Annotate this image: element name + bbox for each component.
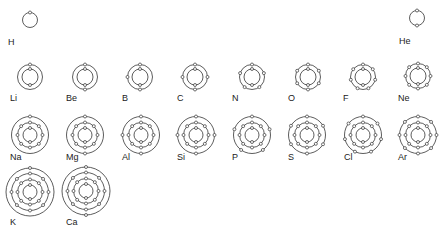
electron bbox=[97, 190, 100, 193]
electron bbox=[307, 84, 310, 87]
electron bbox=[307, 68, 310, 71]
shell-1 bbox=[410, 68, 426, 84]
electron bbox=[29, 121, 32, 124]
electron bbox=[20, 199, 23, 202]
electron bbox=[353, 142, 356, 145]
electron bbox=[268, 128, 271, 131]
electron bbox=[322, 124, 325, 127]
atom-k: K bbox=[6, 167, 54, 228]
shell-1 bbox=[411, 128, 425, 142]
shell-1 bbox=[23, 13, 38, 28]
electron bbox=[16, 191, 19, 194]
electron bbox=[194, 84, 197, 87]
electron bbox=[362, 63, 365, 66]
electron bbox=[84, 141, 87, 144]
electron bbox=[42, 204, 45, 207]
electron bbox=[307, 88, 310, 91]
electron bbox=[367, 87, 370, 90]
electron bbox=[206, 76, 209, 79]
electron bbox=[417, 87, 420, 90]
element-label: B bbox=[122, 93, 128, 103]
electron bbox=[98, 203, 101, 206]
electron bbox=[376, 122, 379, 125]
electron bbox=[425, 66, 428, 69]
shell-1 bbox=[23, 128, 37, 142]
electron bbox=[417, 62, 420, 65]
electron bbox=[195, 121, 198, 124]
electron bbox=[29, 184, 32, 187]
electron bbox=[75, 125, 78, 128]
electron bbox=[430, 147, 433, 150]
shell-1 bbox=[134, 128, 148, 142]
element-label: Ar bbox=[398, 152, 407, 162]
electron bbox=[121, 134, 124, 137]
atom-s: S bbox=[288, 115, 326, 162]
electron bbox=[243, 86, 246, 89]
electron bbox=[29, 63, 32, 66]
electron bbox=[296, 82, 299, 85]
electron bbox=[75, 142, 78, 145]
electron bbox=[194, 88, 197, 91]
electron bbox=[417, 127, 420, 130]
electron bbox=[314, 142, 317, 145]
electron bbox=[362, 84, 365, 87]
electron bbox=[15, 204, 18, 207]
element-label: Li bbox=[10, 93, 17, 103]
electron bbox=[259, 125, 262, 128]
atom-mg: Mg bbox=[66, 115, 104, 162]
electron bbox=[416, 24, 419, 27]
electron bbox=[203, 142, 206, 145]
element-label: H bbox=[8, 37, 15, 47]
electron bbox=[404, 134, 407, 137]
shell-1 bbox=[132, 69, 148, 85]
electron bbox=[352, 68, 355, 71]
electron bbox=[258, 86, 261, 89]
electron bbox=[71, 203, 74, 206]
electron bbox=[195, 127, 198, 130]
electron bbox=[131, 125, 134, 128]
electron bbox=[10, 191, 13, 194]
atom-b: B bbox=[122, 63, 153, 103]
electron bbox=[296, 69, 299, 72]
electron bbox=[29, 115, 32, 118]
electron bbox=[84, 146, 87, 149]
electron bbox=[140, 141, 143, 144]
electron bbox=[425, 142, 428, 145]
electron bbox=[343, 138, 346, 141]
electron bbox=[425, 83, 428, 86]
electron bbox=[41, 191, 44, 194]
element-label: Cl bbox=[344, 152, 353, 162]
electron bbox=[238, 134, 241, 137]
electron bbox=[207, 134, 210, 137]
electron bbox=[139, 88, 142, 91]
element-label: N bbox=[232, 93, 239, 103]
electron bbox=[195, 152, 198, 155]
electron bbox=[233, 128, 236, 131]
electron bbox=[139, 84, 142, 87]
electron bbox=[71, 134, 74, 137]
shell-1 bbox=[244, 69, 260, 85]
electron bbox=[349, 78, 352, 81]
element-label: Si bbox=[177, 152, 185, 162]
shell-1 bbox=[23, 185, 37, 199]
atom-ar: Ar bbox=[398, 115, 438, 162]
electron bbox=[29, 203, 32, 206]
electron bbox=[417, 115, 420, 118]
electron bbox=[96, 134, 99, 137]
electron bbox=[306, 127, 309, 130]
electron bbox=[195, 146, 198, 149]
electron bbox=[289, 124, 292, 127]
electron bbox=[126, 76, 129, 79]
electron bbox=[251, 121, 254, 124]
electron bbox=[140, 127, 143, 130]
electron bbox=[251, 127, 254, 130]
electron bbox=[362, 121, 365, 124]
shell-1 bbox=[300, 69, 316, 85]
electron bbox=[66, 190, 69, 193]
electron bbox=[37, 125, 40, 128]
electron bbox=[84, 127, 87, 130]
electron bbox=[176, 134, 179, 137]
electron bbox=[289, 143, 292, 146]
electron bbox=[127, 134, 130, 137]
electron bbox=[29, 209, 32, 212]
